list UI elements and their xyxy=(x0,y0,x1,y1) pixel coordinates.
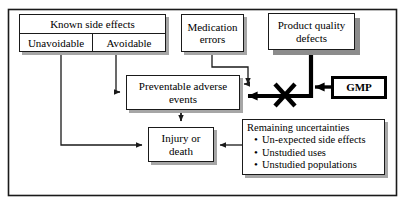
gmp-label: GMP xyxy=(344,81,374,93)
product-quality-defects-label: Product quality defects xyxy=(276,19,348,44)
list-item: Unstudied populations xyxy=(255,159,384,172)
medication-errors-line2: errors xyxy=(200,33,226,45)
node-known-side-effects: Known side effects Unavoidable Avoidable xyxy=(19,14,166,52)
node-product-quality-defects: Product quality defects xyxy=(268,13,355,50)
list-item: Unstudied uses xyxy=(255,147,384,160)
injury-or-death-label: Injury or death xyxy=(160,132,203,157)
node-injury-or-death: Injury or death xyxy=(148,127,214,162)
node-preventable-adverse-events: Preventable adverse events xyxy=(126,75,240,110)
injury-or-death-line2: death xyxy=(169,145,193,157)
injury-or-death-line1: Injury or xyxy=(162,132,201,144)
preventable-adverse-events-line1: Preventable adverse xyxy=(139,80,227,92)
remaining-uncertainties-list: Un-expected side effects Unstudied uses … xyxy=(247,134,384,172)
edge-avoidable-to-preventable xyxy=(116,52,120,92)
node-medication-errors: Medication errors xyxy=(181,14,244,52)
preventable-adverse-events-line2: events xyxy=(169,93,197,105)
preventable-adverse-events-label: Preventable adverse events xyxy=(137,80,229,105)
medication-errors-line1: Medication xyxy=(187,21,237,33)
product-quality-defects-line2: defects xyxy=(296,32,327,44)
medication-errors-label: Medication errors xyxy=(185,21,239,46)
known-side-effects-cells: Unavoidable Avoidable xyxy=(20,34,165,51)
cell-avoidable: Avoidable xyxy=(92,34,165,51)
node-remaining-uncertainties: Remaining uncertainties Un-expected side… xyxy=(242,119,385,175)
cell-unavoidable: Unavoidable xyxy=(20,34,92,51)
known-side-effects-header: Known side effects xyxy=(20,15,165,34)
product-quality-defects-line1: Product quality xyxy=(278,19,346,31)
list-item: Un-expected side effects xyxy=(255,134,384,147)
node-gmp: GMP xyxy=(331,76,387,99)
flowchart-diagram: Known side effects Unavoidable Avoidable… xyxy=(0,0,406,207)
remaining-uncertainties-title: Remaining uncertainties xyxy=(247,122,384,134)
